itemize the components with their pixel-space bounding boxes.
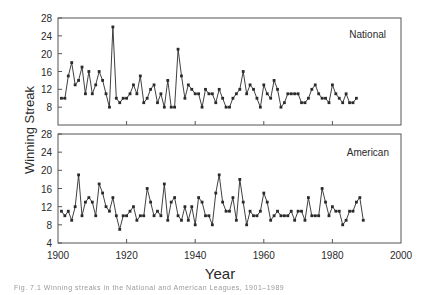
y-tick-label: 8 — [46, 220, 52, 231]
data-point — [94, 83, 97, 86]
data-point — [77, 79, 80, 82]
data-point — [266, 92, 269, 95]
data-point — [221, 97, 224, 100]
data-point — [304, 219, 307, 222]
data-point — [245, 223, 248, 226]
y-tick-label: 12 — [41, 202, 53, 213]
data-point — [324, 201, 327, 204]
data-point — [84, 201, 87, 204]
national-panel: 81216202428 — [41, 13, 401, 125]
data-point — [235, 92, 238, 95]
data-point — [273, 214, 276, 217]
data-point — [300, 101, 303, 104]
data-point — [187, 83, 190, 86]
data-point — [304, 101, 307, 104]
data-point — [87, 70, 90, 73]
data-point — [307, 196, 310, 199]
y-tick-label: 28 — [41, 13, 53, 24]
data-point — [105, 92, 108, 95]
data-point — [211, 223, 214, 226]
y-tick-label: 20 — [41, 165, 53, 176]
data-point — [170, 106, 173, 109]
data-point — [70, 219, 73, 222]
y-tick-label: 16 — [41, 184, 53, 195]
data-point — [146, 97, 149, 100]
data-point — [91, 201, 94, 204]
data-point — [269, 97, 272, 100]
y-tick-label: 12 — [41, 84, 53, 95]
data-point — [122, 214, 125, 217]
winning-streak-chart: 81216202428 481216202428 190019201940196… — [0, 0, 426, 295]
data-point — [352, 101, 355, 104]
data-point — [276, 88, 279, 91]
data-point — [269, 219, 272, 222]
data-point — [101, 192, 104, 195]
data-point — [208, 92, 211, 95]
data-point — [142, 101, 145, 104]
data-point — [286, 214, 289, 217]
data-point — [225, 106, 228, 109]
y-tick-label: 24 — [41, 147, 53, 158]
data-point — [314, 214, 317, 217]
data-point — [225, 210, 228, 213]
data-point — [249, 210, 252, 213]
x-tick-label: 2000 — [390, 250, 413, 261]
data-point — [204, 88, 207, 91]
data-point — [63, 214, 66, 217]
data-point — [166, 79, 169, 82]
data-point — [149, 201, 152, 204]
data-point — [262, 83, 265, 86]
data-point — [70, 61, 73, 64]
data-point — [94, 214, 97, 217]
data-point — [156, 101, 159, 104]
y-axis-label: Winning Streak — [22, 85, 37, 174]
data-point — [129, 210, 132, 213]
data-point — [122, 97, 125, 100]
data-point — [160, 214, 163, 217]
data-point — [163, 183, 166, 186]
data-point — [108, 210, 111, 213]
data-point — [111, 196, 114, 199]
data-point — [146, 187, 149, 190]
data-point — [358, 196, 361, 199]
data-point — [252, 88, 255, 91]
data-point — [194, 223, 197, 226]
data-point — [218, 88, 221, 91]
data-point — [238, 88, 241, 91]
data-point — [177, 214, 180, 217]
data-point — [77, 173, 80, 176]
data-point — [197, 92, 200, 95]
y-tick-label: 16 — [41, 67, 53, 78]
data-point — [60, 210, 63, 213]
data-point — [242, 70, 245, 73]
data-point — [256, 97, 259, 100]
data-point — [98, 70, 101, 73]
data-point — [328, 101, 331, 104]
data-point — [228, 210, 231, 213]
data-point — [142, 214, 145, 217]
data-point — [314, 83, 317, 86]
panel-label-national: National — [349, 29, 386, 40]
data-point — [74, 205, 77, 208]
data-point — [331, 83, 334, 86]
data-point — [214, 101, 217, 104]
data-point — [81, 66, 84, 69]
data-point — [194, 92, 197, 95]
y-tick-label: 8 — [46, 102, 52, 113]
data-point — [166, 219, 169, 222]
data-point — [338, 97, 341, 100]
data-point — [160, 92, 163, 95]
data-point — [84, 92, 87, 95]
data-point — [63, 97, 66, 100]
x-axis: 190019201940196019802000 — [47, 250, 413, 261]
data-point — [352, 210, 355, 213]
data-point — [115, 214, 118, 217]
data-point — [290, 92, 293, 95]
data-point — [310, 214, 313, 217]
data-point — [286, 92, 289, 95]
data-point — [317, 92, 320, 95]
x-tick-label: 1960 — [253, 250, 276, 261]
data-point — [153, 214, 156, 217]
data-point — [149, 88, 152, 91]
data-point — [118, 101, 121, 104]
